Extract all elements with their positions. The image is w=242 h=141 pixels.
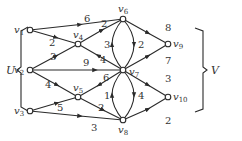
weight-v1-v6: 6 [84, 13, 90, 24]
label-v9: v9 [173, 38, 183, 51]
node-v1 [27, 27, 33, 33]
node-v8 [120, 117, 126, 123]
node-v5 [75, 94, 81, 100]
node-v3 [27, 108, 33, 114]
edge-v8-v10 [123, 97, 168, 120]
edge-v6-v9 [123, 19, 168, 44]
edge-v7-v8-curve [123, 70, 134, 120]
weight-v3-v5: 5 [57, 102, 63, 113]
weight-v6-v9: 8 [165, 22, 171, 33]
node-v9 [165, 41, 171, 47]
label-v5: v5 [73, 82, 83, 95]
weight-v7-v6: 3 [104, 39, 110, 50]
weight-v7-v9: 7 [165, 55, 171, 66]
label-v1: v1 [14, 24, 24, 37]
node-v6 [120, 16, 126, 22]
weight-v8-v7: 1 [104, 90, 110, 101]
node-v10 [165, 94, 171, 100]
edge-v8-v7-curve [112, 70, 123, 120]
edge-v7-v5 [78, 70, 123, 97]
weight-v6-v7: 2 [138, 39, 144, 50]
weight-v8-v10: 2 [165, 115, 171, 126]
weight-v2-v7: 9 [83, 57, 89, 68]
label-v8: v8 [118, 124, 128, 137]
weight-v7-v4: 4 [100, 54, 106, 65]
node-v7 [120, 67, 126, 73]
label-v4: v4 [73, 29, 84, 42]
edge-v6-v7-curve [123, 19, 134, 70]
network-diagram: U V [0, 0, 242, 141]
node-v2 [27, 67, 33, 73]
weight-v7-v5: 6 [103, 72, 109, 83]
node-v4 [75, 41, 81, 47]
edge-weights: 6 2 3 2 4 9 4 5 3 6 2 3 2 1 4 8 7 3 2 [45, 13, 171, 133]
weight-v7-v8: 4 [138, 90, 144, 101]
label-v2: v2 [14, 64, 24, 77]
label-v7: v7 [129, 66, 139, 79]
set-v-brace [195, 28, 207, 112]
edge-v7-v6-curve [112, 19, 123, 70]
weight-v2-v4: 3 [50, 51, 56, 62]
edge-v3-v8 [30, 111, 123, 120]
weight-v1-v4: 2 [49, 37, 55, 48]
weight-v4-v6: 2 [101, 18, 107, 29]
set-v-label: V [211, 64, 220, 77]
weight-v7-v10: 3 [165, 73, 171, 84]
edge-v3-v5 [30, 97, 78, 111]
weight-v5-v8: 2 [98, 102, 104, 113]
weight-v2-v5: 4 [45, 79, 51, 90]
label-v10: v10 [173, 91, 188, 104]
edge-v2-v5 [30, 70, 78, 97]
weight-v3-v8: 3 [91, 122, 97, 133]
label-v6: v6 [118, 3, 129, 16]
label-v3: v3 [14, 105, 24, 118]
